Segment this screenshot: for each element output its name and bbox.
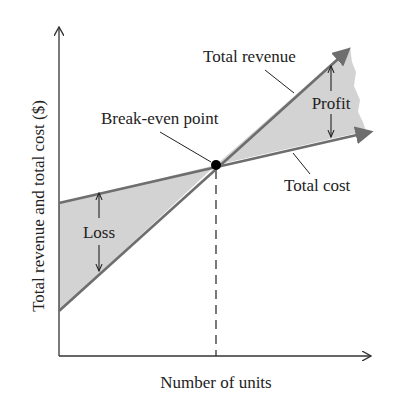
loss-label: Loss	[83, 223, 115, 242]
break-even-point	[211, 160, 221, 170]
total-cost-leader	[293, 153, 310, 174]
total-revenue-label: Total revenue	[203, 47, 296, 66]
x-axis-label: Number of units	[160, 373, 271, 392]
total-cost-label: Total cost	[284, 176, 351, 195]
profit-label: Profit	[312, 94, 351, 113]
total-revenue-leader	[265, 70, 294, 93]
break-even-leader	[160, 132, 211, 162]
break-even-label: Break-even point	[101, 109, 219, 128]
break-even-chart: Total revenue Profit Break-even point To…	[0, 0, 397, 397]
y-axis-label: Total revenue and total cost ($)	[29, 100, 48, 312]
